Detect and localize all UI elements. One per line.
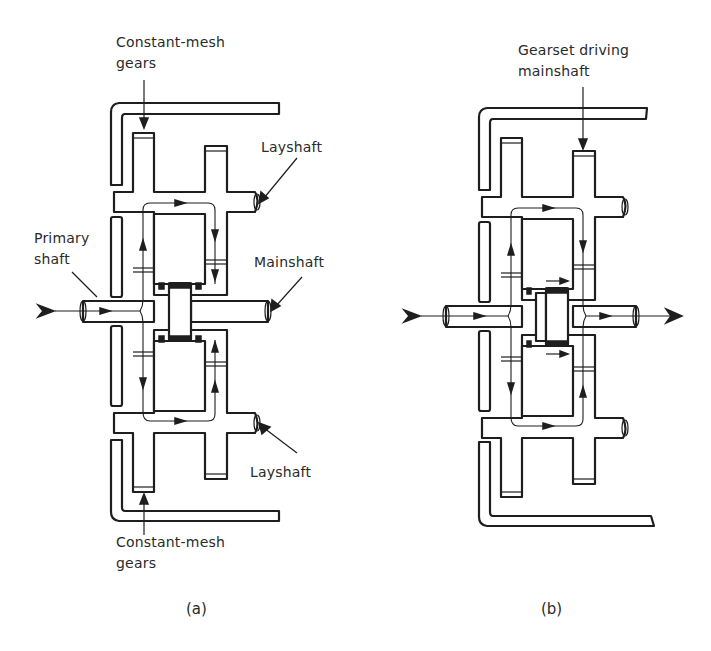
dog-clutch-sleeve-a (169, 283, 191, 341)
label-layshaft-bottom: Layshaft (250, 462, 311, 483)
housing-stub-upper-a (111, 217, 122, 297)
panel-a-diagram (0, 0, 711, 651)
label-constant-mesh-bottom: Constant-mesh gears (116, 532, 225, 574)
label-constant-mesh-top: Constant-mesh gears (116, 32, 225, 74)
caption-b: (b) (541, 600, 562, 618)
input-arrow-a (38, 305, 54, 317)
gearbox-figure: Constant-mesh gears Layshaft Primary sha… (0, 0, 711, 651)
housing-stub-lower-a (111, 326, 122, 406)
label-layshaft-top: Layshaft (261, 137, 322, 158)
label-primary-shaft: Primary shaft (34, 228, 90, 270)
caption-a: (a) (186, 600, 207, 618)
label-mainshaft: Mainshaft (254, 252, 324, 273)
mainshaft-a (191, 301, 268, 322)
label-gearset-driving-mainshaft: Gearset driving mainshaft (518, 40, 629, 82)
